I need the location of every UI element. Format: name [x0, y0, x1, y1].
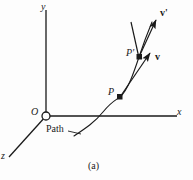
figure-caption: (a): [88, 161, 99, 171]
vector-v-prime-label: v': [160, 8, 168, 18]
y-axis-label: y: [41, 2, 45, 12]
point-p-marker: [117, 94, 123, 100]
point-p-prime-marker: [137, 54, 143, 60]
origin-marker: [42, 112, 50, 120]
vector-v-prime-arrow: [139, 20, 156, 57]
point-p-prime-label: P': [126, 48, 134, 58]
vector-v-arrow: [120, 53, 150, 97]
z-axis-line: [9, 116, 46, 157]
vector-v-label: v: [155, 52, 160, 62]
point-p-label: P: [108, 87, 114, 97]
path-label: Path: [46, 124, 64, 134]
origin-label: O: [31, 107, 38, 117]
figure-container: y x z O P P' v v' Path (a): [0, 0, 193, 180]
coordinate-system-diagram: [0, 0, 193, 180]
x-axis-label: x: [177, 107, 181, 117]
z-axis-label: z: [1, 151, 5, 161]
path-curve: [74, 22, 152, 136]
